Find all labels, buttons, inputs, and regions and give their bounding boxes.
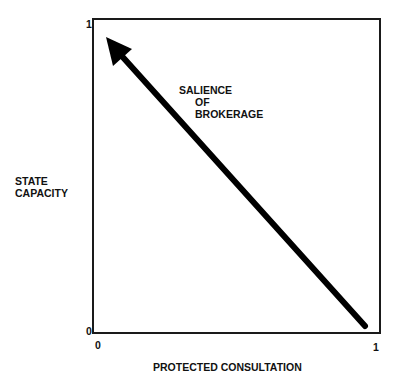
- arrow-label-line3: BROKERAGE: [195, 108, 263, 120]
- arrow-label-line1: SALIENCE: [179, 84, 232, 96]
- x-tick-0: 0: [95, 339, 101, 351]
- plot-frame: [93, 19, 380, 333]
- x-axis-label: PROTECTED CONSULTATION: [153, 361, 302, 373]
- y-tick-1: 1: [86, 18, 92, 30]
- y-axis-label-line1: STATE: [15, 175, 68, 187]
- arrow-label-line2: OF: [195, 96, 210, 108]
- x-tick-1: 1: [373, 341, 379, 353]
- y-axis-label: STATE CAPACITY: [15, 175, 68, 199]
- brokerage-arrow-icon: [106, 37, 365, 326]
- y-axis-label-line2: CAPACITY: [15, 187, 68, 199]
- y-tick-0: 0: [86, 325, 92, 337]
